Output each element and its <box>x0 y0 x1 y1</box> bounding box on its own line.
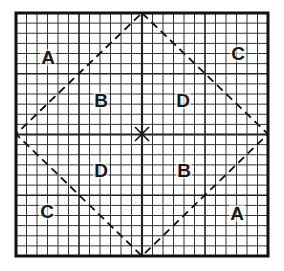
region-label-d: D <box>94 160 108 181</box>
region-label-d: D <box>176 90 190 111</box>
region-label-c: C <box>231 43 245 64</box>
region-label-c: C <box>40 201 54 222</box>
quilt-grid-diagram: ACBDDBCA <box>0 0 284 271</box>
region-label-a: A <box>230 203 244 224</box>
region-label-b: B <box>177 160 191 181</box>
region-label-b: B <box>94 90 108 111</box>
region-label-a: A <box>41 47 55 68</box>
